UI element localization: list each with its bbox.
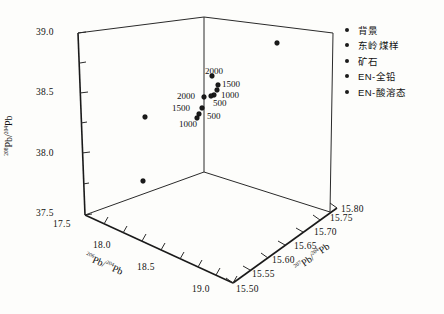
data-point-label: 500: [213, 98, 227, 108]
x-axis-tick-label: 17.5: [53, 219, 71, 229]
data-point: [143, 115, 148, 120]
data-point: [202, 95, 207, 100]
data-point-label: 500: [207, 111, 221, 121]
data-point-label: 1500: [222, 79, 240, 89]
x-axis-tick-label: 18.5: [137, 262, 155, 272]
y-axis-tick-label: 37.5: [36, 208, 54, 218]
y-axis-tick-label: 39.0: [36, 27, 54, 37]
x-axis-tick-label: 18.0: [93, 240, 111, 250]
legend-item[interactable]: 东岭煤样: [345, 38, 441, 54]
legend-item-label: EN-酸溶态: [358, 85, 407, 99]
legend-marker-icon: [345, 59, 349, 63]
legend-item[interactable]: EN-酸溶态: [345, 84, 441, 100]
legend-item[interactable]: 背景: [345, 22, 441, 38]
data-point: [200, 106, 205, 111]
data-point-label: 1000: [179, 119, 197, 129]
x-axis-ticks: [104, 217, 237, 283]
data-point: [275, 41, 280, 46]
data-point-label: 2000: [177, 91, 195, 101]
z-axis-tick-label: 15.80: [341, 204, 364, 214]
x-axis-tick-label: 19.0: [192, 284, 210, 294]
legend-item-label: 背景: [358, 23, 379, 37]
legend-item-label: 东岭煤样: [358, 38, 400, 52]
z-axis-tick-label: 15.50: [236, 284, 259, 294]
y-axis-tick-label: 38.0: [36, 148, 54, 158]
data-point: [216, 83, 221, 88]
z-axis-tick-label: 15.70: [314, 227, 337, 237]
legend-item[interactable]: 矿石: [345, 53, 441, 69]
z-axis-tick-label: 15.75: [330, 213, 353, 223]
y-axis-title: 208Pb/204Pb: [3, 115, 14, 155]
legend-marker-icon: [345, 90, 349, 94]
z-axis-tick-label: 15.55: [252, 269, 275, 279]
legend-marker-icon: [345, 74, 349, 78]
legend: 背景东岭煤样矿石EN-全铅EN-酸溶态: [345, 22, 441, 100]
figure-3d-scatter-plot: 39.038.538.037.5 17.518.018.519.0 15.501…: [0, 0, 444, 314]
legend-item-label: EN-全铅: [358, 69, 396, 83]
y-axis-ticks: [78, 32, 92, 215]
data-point-label: 1500: [172, 103, 190, 113]
data-point: [141, 179, 146, 184]
legend-item[interactable]: EN-全铅: [345, 69, 441, 85]
data-point-label: 2000: [205, 66, 223, 76]
legend-marker-icon: [345, 28, 349, 32]
legend-marker-icon: [345, 43, 349, 47]
data-point: [215, 88, 220, 93]
y-axis-tick-label: 38.5: [36, 87, 54, 97]
legend-item-label: 矿石: [358, 54, 379, 68]
